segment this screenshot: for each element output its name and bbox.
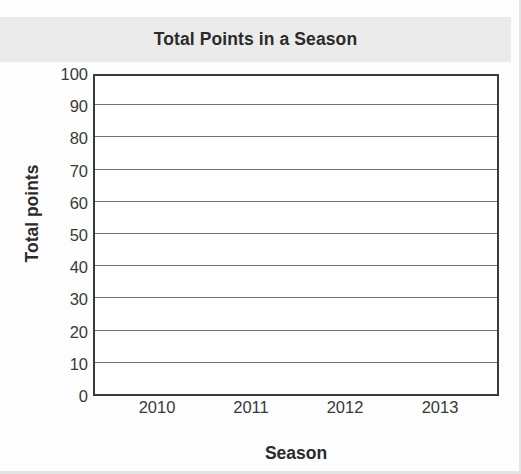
y-tick-label: 90 xyxy=(0,98,88,115)
x-axis-tick-labels: 2010 2011 2012 2013 xyxy=(93,399,499,423)
y-tick-label: 30 xyxy=(0,291,88,308)
gridline-60 xyxy=(95,201,497,202)
x-axis-title: Season xyxy=(93,443,499,464)
y-tick-label: 10 xyxy=(0,356,88,373)
y-tick-label: 100 xyxy=(0,66,88,83)
y-tick-label: 40 xyxy=(0,259,88,276)
gridline-90 xyxy=(95,104,497,105)
gridline-30 xyxy=(95,297,497,298)
chart-title-banner: Total Points in a Season xyxy=(0,17,511,62)
plot-area xyxy=(93,74,499,396)
y-tick-label: 70 xyxy=(0,162,88,179)
gridline-80 xyxy=(95,136,497,137)
y-tick-label: 0 xyxy=(0,388,88,405)
y-tick-label: 80 xyxy=(0,130,88,147)
gridline-10 xyxy=(95,362,497,363)
gridline-20 xyxy=(95,330,497,331)
y-tick-label: 60 xyxy=(0,195,88,212)
gridlines xyxy=(95,76,497,394)
y-tick-label: 20 xyxy=(0,323,88,340)
gridline-70 xyxy=(95,169,497,170)
y-tick-label: 50 xyxy=(0,227,88,244)
y-axis-tick-labels: 100 90 80 70 60 50 40 30 20 10 0 xyxy=(0,74,88,396)
gridline-40 xyxy=(95,265,497,266)
x-tick-label: 2012 xyxy=(327,399,364,416)
gridline-50 xyxy=(95,233,497,234)
x-tick-label: 2010 xyxy=(139,399,176,416)
x-tick-label: 2013 xyxy=(422,399,459,416)
chart-figure: Total Points in a Season Total points 10… xyxy=(0,0,521,474)
x-tick-label: 2011 xyxy=(233,399,268,416)
chart-title: Total Points in a Season xyxy=(154,29,357,50)
